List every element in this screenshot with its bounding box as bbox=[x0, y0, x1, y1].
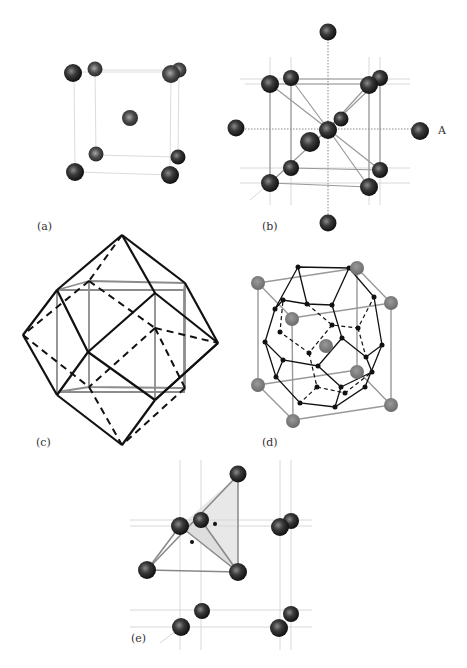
panel-d-label: (d) bbox=[262, 436, 278, 449]
panel-d-truncated-octahedron bbox=[251, 261, 398, 428]
panel-b-label: (b) bbox=[262, 220, 278, 233]
panel-a-bcc-cell bbox=[64, 62, 187, 185]
atom-a-label: A bbox=[438, 124, 446, 137]
crystal-structures-figure bbox=[0, 0, 467, 668]
panel-b-bcc-neighbors bbox=[228, 24, 430, 232]
panel-e-label: (e) bbox=[131, 632, 146, 645]
panel-c-label: (c) bbox=[36, 436, 51, 449]
panel-a-label: (a) bbox=[37, 220, 52, 233]
panel-e-tetrahedral-site bbox=[130, 460, 312, 650]
panel-c-rhombic-dodecahedron bbox=[23, 235, 218, 445]
